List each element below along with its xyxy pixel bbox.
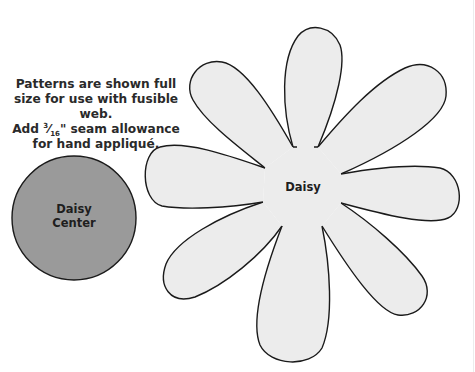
center-label-line-1: Daisy (24, 202, 124, 216)
daisy-center-label: Daisy Center (24, 202, 124, 230)
fraction-numerator: 3 (43, 122, 48, 130)
instructions-line-4: for hand appliqué. (0, 137, 192, 152)
instructions-line-3: Add 3⁄16" seam allowance (0, 122, 192, 137)
pattern-instructions: Patterns are shown full size for use wit… (0, 77, 192, 152)
daisy-label: Daisy (273, 180, 333, 194)
instructions-seam-text: " seam allowance (60, 122, 180, 136)
daisy-flower-shape (145, 28, 459, 362)
instructions-add-text: Add (12, 122, 43, 136)
center-label-line-2: Center (24, 216, 124, 230)
instructions-line-2: size for use with fusible web. (0, 92, 192, 122)
pattern-canvas (0, 0, 475, 372)
page-edge-divider (473, 0, 474, 372)
instructions-line-1: Patterns are shown full (0, 77, 192, 92)
